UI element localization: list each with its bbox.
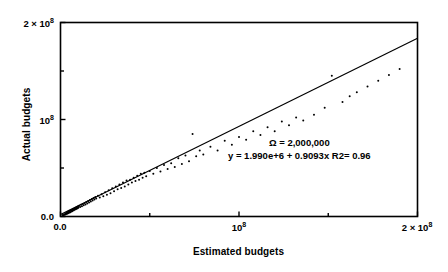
scatter-plot-figure: 2 × 108 108 0.0 0.0 108 2 × 108 Actual b…: [0, 0, 448, 272]
y-tick-label-2: 2 × 108: [0, 17, 54, 29]
x-tick-label-0: 0.0: [25, 221, 95, 232]
annotation-line-omega: Ω = 2,000,000: [228, 136, 371, 149]
annotation-line-equation: y = 1.990e+6 + 0.9093x R2= 0.96: [228, 149, 371, 162]
regression-line: [61, 38, 418, 214]
x-tick-label-1: 108: [204, 221, 274, 233]
axis-ticks: [61, 23, 418, 217]
plot-frame: [61, 23, 418, 217]
regression-annotation: Ω = 2,000,000 y = 1.990e+6 + 0.9093x R2=…: [228, 136, 371, 162]
x-axis-title: Estimated budgets: [60, 246, 417, 257]
y-axis-title: Actual budgets: [21, 55, 32, 195]
x-tick-label-2: 2 × 108: [382, 221, 448, 233]
